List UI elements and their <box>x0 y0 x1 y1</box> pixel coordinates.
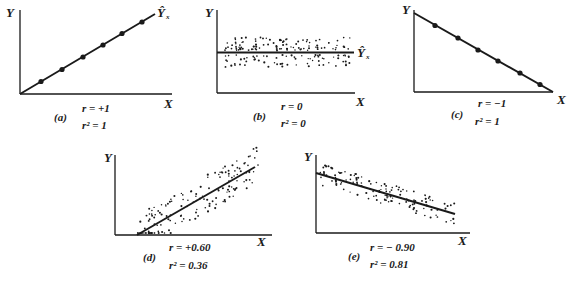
x-axis-label: X <box>457 233 467 248</box>
panel-tag: (d) <box>143 251 156 264</box>
panel-tag: (b) <box>253 110 266 123</box>
r2-value: r² = 1 <box>82 119 107 131</box>
correlation-figure: Y X Ŷ x r = +1 (a) r² = 1 Y X Ŷ x r = 0 … <box>0 0 571 286</box>
x-axis-label: X <box>355 94 365 109</box>
r2-value: r² = 1 <box>475 115 500 127</box>
panel-tag: (e) <box>348 250 360 263</box>
r-value: r = − 0.90 <box>370 241 415 253</box>
y-axis-label: Y <box>205 5 214 20</box>
regression-line <box>316 173 455 214</box>
r-value: r = 0 <box>281 100 303 112</box>
panel-b: Y X Ŷ x r = 0 (b) r² = 0 <box>205 5 370 129</box>
r-value: r = +1 <box>82 102 110 114</box>
y-axis-label: Y <box>6 5 15 20</box>
yhat-subscript: x <box>365 53 370 61</box>
x-axis-label: X <box>256 234 266 249</box>
data-points <box>137 147 259 234</box>
r2-value: r² = 0.81 <box>370 258 409 270</box>
r-value: r = −1 <box>478 97 506 109</box>
r2-value: r² = 0 <box>281 117 306 129</box>
panel-tag: (a) <box>54 111 67 124</box>
r2-value: r² = 0.36 <box>169 259 208 271</box>
y-axis-label: Y <box>104 150 113 165</box>
x-axis-label: X <box>163 96 173 111</box>
yhat-label: Ŷ <box>357 45 366 60</box>
y-axis-label: Y <box>402 2 411 17</box>
x-axis-label: X <box>556 92 566 107</box>
panel-e: Y X r = − 0.90 (e) r² = 0.81 <box>304 149 470 270</box>
r-value: r = +0.60 <box>169 241 211 253</box>
panel-a: Y X Ŷ x r = +1 (a) r² = 1 <box>6 5 173 131</box>
y-axis-label: Y <box>304 149 313 164</box>
yhat-subscript: x <box>165 13 170 21</box>
panel-tag: (c) <box>451 108 463 121</box>
yhat-label: Ŷ <box>157 5 166 20</box>
panel-d: Y X r = +0.60 (d) r² = 0.36 <box>104 147 272 271</box>
regression-line <box>137 167 255 235</box>
panel-c: Y X r = −1 (c) r² = 1 <box>402 2 566 127</box>
